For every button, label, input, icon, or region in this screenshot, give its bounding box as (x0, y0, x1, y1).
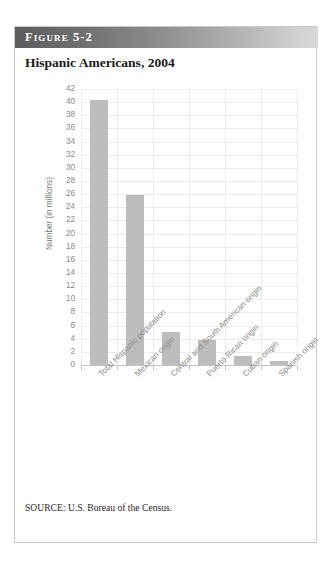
y-tick-label: 12 (49, 282, 75, 290)
x-tick (261, 366, 262, 370)
y-tick-label: 2 (49, 348, 75, 356)
y-tick-label: 16 (49, 256, 75, 264)
source-note: SOURCE: U.S. Bureau of the Census. (25, 502, 172, 513)
bar (90, 100, 108, 365)
figure-title: Hispanic Americans, 2004 (25, 55, 175, 71)
x-tick (153, 366, 154, 370)
y-tick-label: 6 (49, 322, 75, 330)
y-tick-label: 18 (49, 243, 75, 251)
figure-card: Figure 5-2 Hispanic Americans, 2004 Numb… (14, 26, 317, 543)
y-tick-label: 42 (49, 85, 75, 93)
y-tick-label: 14 (49, 269, 75, 277)
y-tick-label: 34 (49, 138, 75, 146)
y-tick-label: 28 (49, 177, 75, 185)
y-tick-label: 36 (49, 124, 75, 132)
gridline (261, 89, 262, 365)
figure-banner: Figure 5-2 (15, 27, 318, 48)
x-tick (189, 366, 190, 370)
y-tick-label: 10 (49, 295, 75, 303)
figure-number-label: Figure 5-2 (25, 30, 93, 45)
y-tick-label: 0 (49, 361, 75, 369)
gridline (297, 89, 298, 365)
y-tick-label: 26 (49, 190, 75, 198)
plot-area: Total Hispanic populationMexican originC… (81, 89, 297, 365)
y-tick-label: 32 (49, 151, 75, 159)
gridline (189, 89, 190, 365)
y-tick-label: 40 (49, 98, 75, 106)
y-tick-label: 4 (49, 335, 75, 343)
x-tick (297, 366, 298, 370)
gridline (81, 89, 82, 365)
x-tick (225, 366, 226, 370)
y-tick-label: 24 (49, 203, 75, 211)
y-tick-label: 22 (49, 216, 75, 224)
y-tick-label: 30 (49, 164, 75, 172)
y-tick-label: 20 (49, 230, 75, 238)
x-tick-label: Spanish origin (277, 335, 320, 378)
x-tick (81, 366, 82, 370)
bar-chart: Number (in millions) 4240383634323028262… (15, 77, 318, 497)
gridline (117, 89, 118, 365)
y-tick-label: 38 (49, 111, 75, 119)
y-tick-label: 8 (49, 308, 75, 316)
x-tick (117, 366, 118, 370)
